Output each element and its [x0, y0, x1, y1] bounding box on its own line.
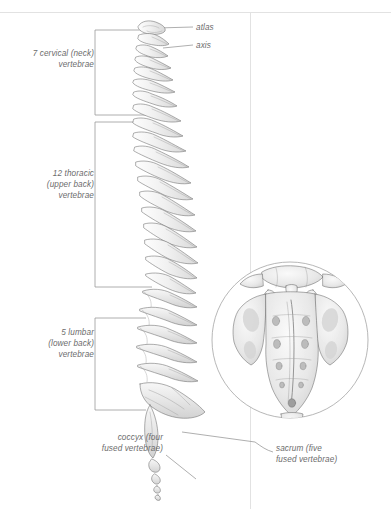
spine-diagram-figure: 7 cervical (neck) vertebrae 12 thoracic …	[0, 0, 391, 509]
sacrum-inset	[212, 262, 368, 451]
label-axis: axis	[196, 40, 211, 51]
leader-coccyx	[166, 455, 196, 479]
coccyx-lateral	[149, 459, 161, 500]
label-lumbar: 5 lumbar (lower back) vertebrae	[48, 327, 94, 361]
thoracic-vertebrae	[133, 104, 198, 294]
vertebral-column	[133, 21, 205, 501]
vertebra-atlas	[138, 21, 165, 35]
vertebra-axis	[138, 34, 169, 46]
page-rules	[0, 13, 391, 509]
lumbar-vertebrae	[137, 289, 198, 382]
label-sacrum: sacrum (five fused vertebrae)	[276, 443, 337, 465]
bracket-lumbar	[95, 318, 146, 410]
spine-illustration	[0, 0, 391, 509]
inset-sacral-hiatus	[288, 399, 295, 407]
leader-axis	[163, 45, 193, 48]
label-coccyx: coccyx (four fused vertebrae)	[102, 432, 163, 454]
cervical-vertebrae	[133, 45, 177, 107]
label-atlas: atlas	[196, 22, 214, 33]
leader-sacrum	[182, 432, 273, 452]
label-thoracic: 12 thoracic (upper back) vertebrae	[47, 168, 94, 202]
label-cervical: 7 cervical (neck) vertebrae	[33, 48, 94, 70]
